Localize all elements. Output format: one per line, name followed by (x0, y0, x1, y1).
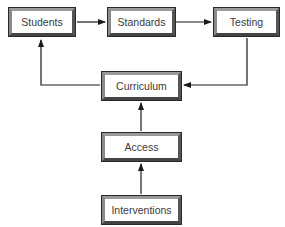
node-label: Interventions (111, 204, 171, 216)
node-label: Standards (118, 16, 166, 28)
node-standards: Standards (108, 8, 175, 36)
arrow-testing-to-curriculum (184, 38, 247, 85)
node-label: Testing (230, 16, 263, 28)
arrow-curriculum-to-students (41, 40, 100, 85)
node-testing: Testing (214, 8, 279, 36)
node-students: Students (9, 8, 75, 36)
node-access: Access (102, 133, 181, 161)
node-interventions: Interventions (102, 196, 181, 224)
node-label: Access (125, 141, 159, 153)
node-label: Curriculum (116, 80, 167, 92)
node-label: Students (21, 16, 62, 28)
node-curriculum: Curriculum (102, 72, 181, 100)
